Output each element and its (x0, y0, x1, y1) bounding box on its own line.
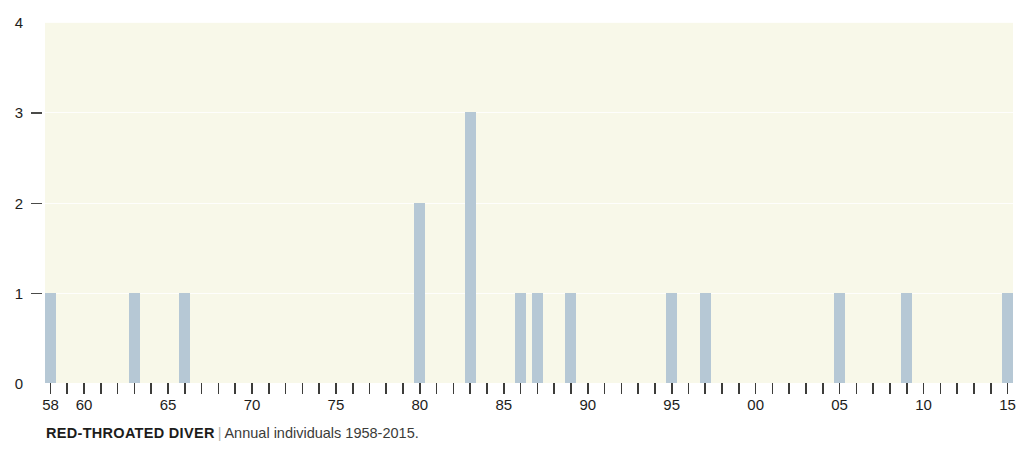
x-tick-mark (318, 383, 320, 394)
x-tick-mark (117, 383, 119, 394)
x-tick-mark (721, 383, 723, 394)
x-tick-mark (990, 383, 992, 394)
x-tick-mark (637, 383, 639, 394)
x-tick-mark (352, 383, 354, 394)
x-tick-mark (788, 383, 790, 394)
bar (565, 293, 576, 383)
x-tick-mark (503, 383, 505, 394)
x-tick-label: 70 (244, 397, 261, 412)
x-tick-mark (234, 383, 236, 394)
y-axis: 01234 (0, 0, 45, 405)
x-tick-mark (604, 383, 606, 394)
x-tick-mark (520, 383, 522, 394)
x-tick-label: 10 (915, 397, 932, 412)
x-tick-mark (285, 383, 287, 394)
x-tick-mark (755, 383, 757, 394)
x-tick-label: 58 (42, 397, 59, 412)
x-tick-mark (805, 383, 807, 394)
x-tick-mark (150, 383, 152, 394)
x-tick-mark (621, 383, 623, 394)
x-axis: 58606570758085909500051015 (45, 383, 1017, 423)
x-tick-mark (822, 383, 824, 394)
x-tick-mark (218, 383, 220, 394)
x-tick-mark (906, 383, 908, 394)
x-tick-mark (553, 383, 555, 394)
x-tick-mark (537, 383, 539, 394)
x-tick-mark (772, 383, 774, 394)
x-tick-mark (402, 383, 404, 394)
x-tick-mark (251, 383, 253, 394)
x-tick-mark (83, 383, 85, 394)
caption-species: RED-THROATED DIVER (46, 425, 215, 441)
grid-line (45, 22, 1013, 23)
bar (666, 293, 677, 383)
bar (700, 293, 711, 383)
x-tick-label: 00 (747, 397, 764, 412)
x-tick-label: 80 (412, 397, 429, 412)
x-tick-mark (704, 383, 706, 394)
x-tick-mark (385, 383, 387, 394)
bar (901, 293, 912, 383)
x-tick-mark (335, 383, 337, 394)
x-tick-label: 95 (663, 397, 680, 412)
bar (179, 293, 190, 383)
x-tick-label: 65 (160, 397, 177, 412)
x-tick-mark (940, 383, 942, 394)
x-tick-mark (973, 383, 975, 394)
x-tick-mark (419, 383, 421, 394)
x-tick-mark (167, 383, 169, 394)
x-tick-mark (654, 383, 656, 394)
x-tick-mark (889, 383, 891, 394)
grid-line (45, 112, 1013, 113)
bar (834, 293, 845, 383)
x-tick-mark (100, 383, 102, 394)
x-tick-mark (50, 383, 52, 394)
bar (414, 203, 425, 384)
x-tick-label: 05 (831, 397, 848, 412)
x-tick-label: 60 (76, 397, 93, 412)
x-tick-mark (66, 383, 68, 394)
y-tick-mark (31, 203, 42, 205)
x-tick-mark (302, 383, 304, 394)
chart-figure: 01234 58606570758085909500051015 RED-THR… (0, 0, 1017, 455)
x-tick-mark (688, 383, 690, 394)
chart-caption: RED-THROATED DIVER|Annual individuals 19… (46, 426, 419, 441)
x-tick-mark (587, 383, 589, 394)
y-tick-label: 3 (5, 105, 23, 120)
x-tick-mark (201, 383, 203, 394)
bar (1002, 293, 1013, 383)
bar (45, 293, 56, 383)
grid-line (45, 203, 1013, 204)
x-tick-mark (839, 383, 841, 394)
x-tick-label: 75 (328, 397, 345, 412)
y-tick-label: 1 (5, 286, 23, 301)
bar (532, 293, 543, 383)
bar (129, 293, 140, 383)
x-tick-label: 90 (579, 397, 596, 412)
x-tick-mark (436, 383, 438, 394)
x-tick-mark (184, 383, 186, 394)
x-tick-label: 15 (999, 397, 1016, 412)
x-tick-mark (923, 383, 925, 394)
x-tick-mark (453, 383, 455, 394)
plot-area (45, 22, 1013, 383)
x-tick-mark (671, 383, 673, 394)
y-tick-label: 2 (5, 196, 23, 211)
y-tick-mark (31, 293, 42, 295)
caption-separator: | (215, 425, 225, 441)
x-tick-mark (1007, 383, 1009, 394)
x-tick-label: 85 (495, 397, 512, 412)
y-tick-label: 0 (5, 376, 23, 391)
x-tick-mark (872, 383, 874, 394)
x-tick-mark (369, 383, 371, 394)
caption-subtitle: Annual individuals 1958-2015. (224, 425, 418, 441)
bar (515, 293, 526, 383)
x-tick-mark (570, 383, 572, 394)
x-tick-mark (268, 383, 270, 394)
x-tick-mark (134, 383, 136, 394)
y-tick-mark (31, 112, 42, 114)
x-tick-mark (469, 383, 471, 394)
x-tick-mark (486, 383, 488, 394)
y-tick-label: 4 (5, 15, 23, 30)
x-tick-mark (956, 383, 958, 394)
